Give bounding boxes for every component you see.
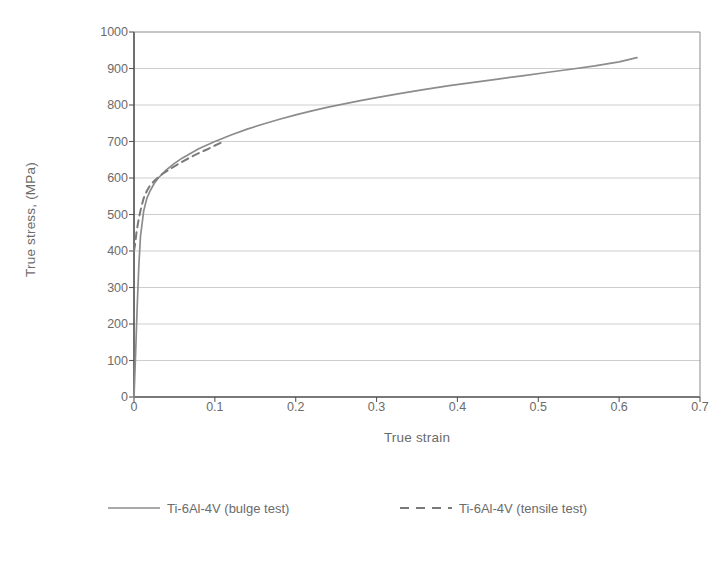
x-tick-label: 0 <box>114 400 154 414</box>
y-tick-label: 700 <box>84 135 128 149</box>
legend-label-tensile-test: Ti-6Al-4V (tensile test) <box>459 501 587 516</box>
y-tick-label: 400 <box>84 244 128 258</box>
y-tick-label: 800 <box>84 98 128 112</box>
x-tick-label: 0.7 <box>680 400 720 414</box>
stress-strain-chart: 01002003004005006007008009001000 00.10.2… <box>0 0 722 565</box>
y-axis-title: True stress, (MPa) <box>23 120 38 320</box>
gridlines <box>134 69 700 361</box>
data-series-layer <box>134 58 637 397</box>
y-tick-label: 100 <box>84 354 128 368</box>
y-tick-label: 600 <box>84 171 128 185</box>
y-tick-label: 1000 <box>84 25 128 39</box>
y-tick-label: 900 <box>84 62 128 76</box>
x-tick-label: 0.1 <box>195 400 235 414</box>
y-tick-label: 300 <box>84 281 128 295</box>
legend-label-bulge-test: Ti-6Al-4V (bulge test) <box>167 501 289 516</box>
chart-legend: Ti-6Al-4V (bulge test) Ti-6Al-4V (tensil… <box>100 496 660 526</box>
x-tick-label: 0.6 <box>599 400 639 414</box>
x-axis-title: True strain <box>134 430 700 445</box>
y-tick-label: 500 <box>84 208 128 222</box>
x-tick-label: 0.2 <box>276 400 316 414</box>
x-tick-label: 0.4 <box>437 400 477 414</box>
legend-item-tensile-test: Ti-6Al-4V (tensile test) <box>400 498 587 518</box>
x-tick-label: 0.3 <box>357 400 397 414</box>
axis-ticks <box>129 32 700 402</box>
legend-item-bulge-test: Ti-6Al-4V (bulge test) <box>108 498 289 518</box>
series-line-0 <box>134 58 637 397</box>
legend-line-sample-dashed <box>400 502 452 514</box>
y-tick-label: 200 <box>84 317 128 331</box>
legend-line-sample-solid <box>108 502 160 514</box>
x-tick-label: 0.5 <box>518 400 558 414</box>
y-axis-tick-labels: 01002003004005006007008009001000 <box>72 0 128 565</box>
